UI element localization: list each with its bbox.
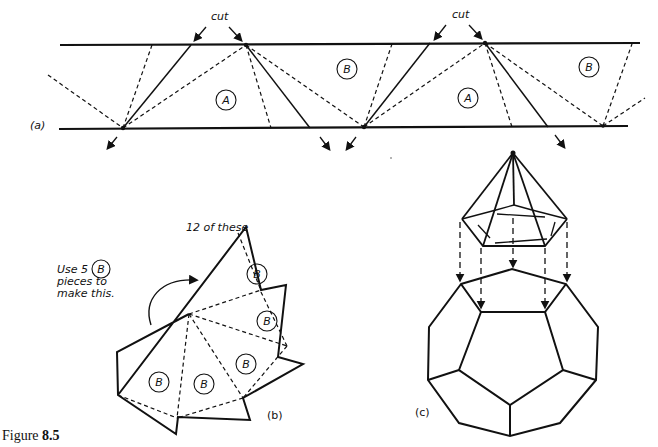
- panel-c-pyramid: [462, 151, 567, 247]
- piece-label: B: [194, 374, 214, 394]
- figure-caption: Figure 8.5: [2, 428, 60, 444]
- svg-text:B: B: [200, 378, 208, 391]
- arrow-icon: [229, 27, 241, 40]
- figure-diagram: A B A B cut cut (a): [0, 0, 658, 447]
- arrow-icon: [347, 137, 356, 149]
- cut-label-right: cut: [452, 8, 470, 21]
- arrow-icon: [435, 25, 446, 39]
- arrow-icon: [108, 137, 117, 148]
- region-label-a2: A: [458, 88, 478, 108]
- panel-a-label: (a): [30, 119, 45, 132]
- piece-label: B: [149, 372, 169, 392]
- svg-text:B: B: [242, 358, 250, 371]
- caption-number: 8.5: [42, 428, 60, 443]
- fan-outline: [117, 227, 303, 434]
- panel-c-label: (c): [415, 406, 430, 419]
- arrow-icon: [555, 135, 564, 147]
- region-label-b2: B: [579, 57, 599, 77]
- svg-text:B: B: [97, 263, 105, 276]
- piece-label: B: [257, 311, 277, 331]
- cut-lines: [123, 43, 548, 128]
- panel-c-dodecahedron: [428, 269, 598, 436]
- svg-text:B: B: [263, 315, 271, 328]
- panel-a-region-labels: A B A B: [216, 57, 599, 110]
- panel-c-drop-arrows: [460, 218, 567, 307]
- panel-b-label: (b): [267, 409, 283, 422]
- cut-arrows: [195, 25, 481, 40]
- instruction-line3: make this.: [57, 287, 115, 300]
- arrow-icon: [320, 137, 329, 149]
- piece-label: B: [236, 354, 256, 374]
- panel-b-fan: [117, 227, 303, 434]
- region-label-b1: B: [337, 59, 357, 79]
- region-label-a1: A: [216, 90, 236, 110]
- svg-text:B: B: [585, 61, 593, 74]
- count-note: 12 of these: [186, 221, 248, 234]
- vertex-dots: [121, 41, 605, 130]
- fold-lines: [48, 43, 645, 128]
- separation-arrows: [108, 135, 564, 149]
- svg-text:B: B: [253, 268, 261, 281]
- arrow-icon: [469, 25, 481, 38]
- svg-text:A: A: [221, 94, 230, 107]
- cut-label-left: cut: [211, 10, 229, 23]
- svg-text:B: B: [343, 63, 351, 76]
- strip-bottom-edge: [59, 126, 628, 129]
- strip-top-edge: [60, 43, 640, 45]
- svg-text:A: A: [463, 92, 472, 105]
- panel-a-strip: [48, 25, 645, 159]
- caption-prefix: Figure: [2, 428, 42, 443]
- arrow-icon: [195, 27, 206, 40]
- svg-text:B: B: [155, 376, 163, 389]
